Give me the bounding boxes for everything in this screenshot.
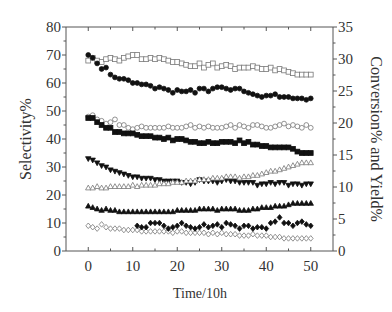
data-point [206,224,211,230]
x-tick-label: 40 [259,258,274,274]
data-point [308,151,313,156]
data-point [135,223,140,229]
data-point [95,61,100,66]
data-point [246,125,251,130]
data-point [95,226,100,232]
data-point [224,220,229,226]
data-point [108,120,113,125]
x-tick-label: 50 [303,258,318,274]
data-point [299,125,304,130]
data-point [308,96,313,101]
data-point [103,206,108,211]
data-point [272,182,277,187]
data-point [264,233,269,239]
y2-tick-label: 35 [338,19,353,35]
data-point [299,183,304,188]
data-point [202,222,207,228]
x-tick-label: 0 [85,258,93,274]
data-point [202,230,207,236]
y-tick-label: 60 [46,75,61,91]
data-point [108,72,113,77]
y2-axis-title: Conversion% and Yield% [368,56,385,222]
y2-tick-label: 20 [338,115,353,131]
data-point [308,182,313,187]
data-point [94,161,99,166]
data-point [188,123,193,128]
data-point [117,226,122,232]
data-point [215,222,220,228]
data-point [237,86,242,91]
data-point [277,234,282,240]
data-point [162,223,167,229]
data-point [170,224,175,230]
data-point [308,236,313,242]
data-point [232,206,237,211]
data-point [197,224,202,230]
data-point [104,65,109,70]
data-point [308,160,313,165]
data-point [179,220,184,226]
x-tick-label: 20 [170,258,185,274]
data-point [179,229,184,235]
x-tick-label: 30 [214,258,229,274]
y2-tick-label: 0 [338,243,346,259]
data-point [166,88,171,93]
data-point [246,223,251,229]
data-point [170,90,175,95]
data-point [251,226,256,232]
y2-tick-label: 15 [338,147,353,163]
data-point [104,224,109,230]
y2-tick-label: 25 [338,83,353,99]
y-tick-label: 10 [46,215,61,231]
y-tick-label: 50 [46,103,61,119]
data-point [273,219,278,225]
data-point [206,89,211,94]
data-point [308,201,313,206]
data-point [304,123,309,128]
y-tick-label: 30 [46,159,61,175]
x-tick-label: 10 [125,258,140,274]
data-point [193,226,198,232]
data-point [210,223,215,229]
data-point [112,208,117,213]
data-point [232,174,237,179]
data-point [233,223,238,229]
data-point [259,224,264,230]
data-point [277,215,282,221]
data-point [246,233,251,239]
data-point [157,220,162,226]
data-point [206,231,211,237]
data-point [175,223,180,229]
data-point [251,231,256,237]
data-point [286,220,291,226]
data-point [250,181,255,186]
data-point [144,224,149,230]
data-point [148,83,153,88]
y-tick-label: 20 [46,187,61,203]
data-point [126,78,131,83]
data-point [286,183,291,188]
data-point [210,206,215,211]
data-point [308,125,313,130]
data-point [94,184,99,189]
data-point [228,222,233,228]
data-point [170,230,175,236]
data-point [291,223,296,229]
data-point [184,223,189,229]
data-point [121,123,126,128]
data-point [86,223,91,229]
data-point [237,226,242,232]
series-filled-down-triangles [86,157,314,188]
data-point [86,53,91,58]
data-point [264,226,269,232]
data-point [215,181,220,186]
y2-tick-label: 5 [338,211,346,227]
series-open-circles [86,113,313,132]
data-marks [86,53,314,242]
y2-tick-label: 30 [338,51,353,67]
data-point [113,117,118,122]
series-open-squares [86,53,313,77]
data-point [228,123,233,128]
data-point [268,220,273,226]
data-point [282,121,287,126]
